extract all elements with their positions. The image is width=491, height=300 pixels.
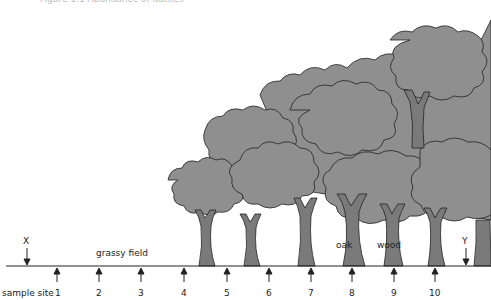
- site-arrow-4: [181, 268, 187, 282]
- site-number-3: 3: [138, 288, 144, 298]
- y-marker-arrow: [463, 248, 469, 265]
- site-arrow-7: [308, 268, 314, 282]
- wood-label: wood: [377, 240, 401, 250]
- site-arrow-10: [432, 268, 438, 282]
- site-arrow-9: [391, 268, 397, 282]
- site-arrow-5: [224, 268, 230, 282]
- oak-label: oak: [336, 240, 352, 250]
- oak-wood-canopy: [168, 20, 491, 224]
- site-number-4: 4: [181, 288, 187, 298]
- site-number-7: 7: [308, 288, 314, 298]
- x-marker-label: X: [23, 236, 29, 246]
- site-number-8: 8: [349, 288, 355, 298]
- site-number-1: 1: [55, 288, 61, 298]
- site-arrow-2: [96, 268, 102, 282]
- sample-site-label: sample site: [2, 288, 54, 298]
- x-marker-arrow: [24, 248, 30, 265]
- site-number-6: 6: [266, 288, 272, 298]
- site-arrow-6: [266, 268, 272, 282]
- site-arrows: [54, 268, 438, 282]
- site-number-9: 9: [391, 288, 397, 298]
- y-marker-label: Y: [462, 236, 468, 246]
- site-number-2: 2: [96, 288, 102, 298]
- transect-diagram: [0, 0, 491, 300]
- site-arrow-1: [54, 268, 60, 282]
- site-number-10: 10: [429, 288, 440, 298]
- site-arrow-3: [138, 268, 144, 282]
- site-number-5: 5: [224, 288, 230, 298]
- grassy-field-label: grassy field: [96, 248, 148, 258]
- site-arrow-8: [349, 268, 355, 282]
